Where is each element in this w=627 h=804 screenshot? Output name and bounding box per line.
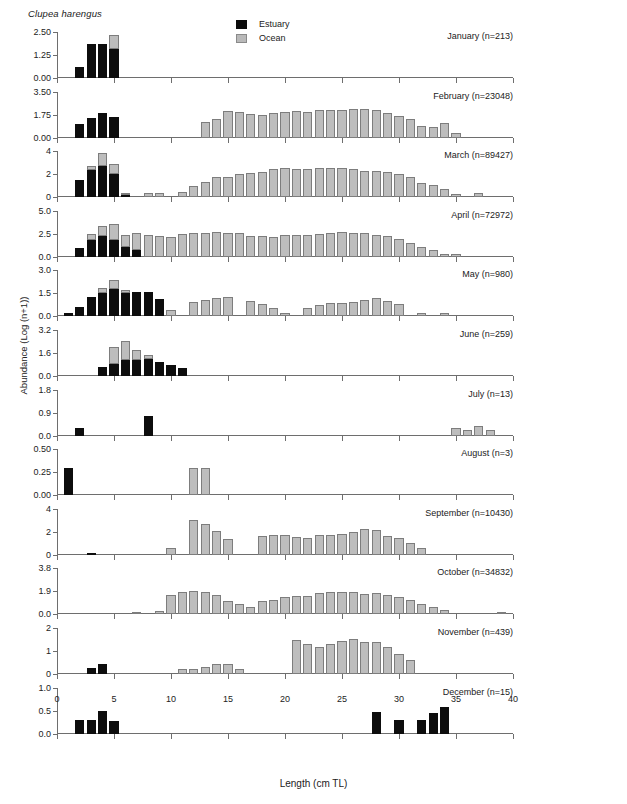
bar	[315, 305, 324, 317]
y-axis-line	[57, 270, 58, 316]
bar-segment-ocean	[212, 595, 221, 614]
x-tick	[57, 316, 58, 321]
x-tick	[57, 257, 58, 262]
plot-area-january: 0.001.252.50	[57, 32, 513, 78]
bar-segment-ocean	[417, 183, 426, 197]
bar-segment-estuary	[98, 44, 107, 78]
plot-area-may: 0.01.53.0	[57, 270, 513, 316]
x-tick	[399, 78, 400, 83]
bar	[109, 117, 118, 138]
y-tick	[53, 591, 57, 592]
bar	[223, 177, 232, 197]
y-tick-label: 1.5	[38, 288, 51, 298]
x-tick	[57, 495, 58, 500]
x-tick	[342, 138, 343, 143]
bar	[189, 468, 198, 496]
bar-segment-ocean	[429, 185, 438, 197]
x-tick	[342, 257, 343, 262]
bar-segment-ocean	[235, 604, 244, 614]
bar	[360, 300, 369, 316]
bar-segment-ocean	[372, 593, 381, 615]
x-tick	[513, 138, 514, 143]
bar	[360, 109, 369, 137]
x-tick	[399, 674, 400, 679]
bar	[337, 232, 346, 257]
x-tick	[342, 734, 343, 739]
bar-segment-ocean	[280, 235, 289, 256]
x-tick	[456, 257, 457, 262]
bar	[98, 711, 107, 734]
bar	[212, 232, 221, 257]
bar	[246, 173, 255, 197]
bar-segment-estuary	[155, 362, 164, 376]
y-tick-label: 0.50	[33, 444, 51, 454]
bar	[337, 168, 346, 197]
bar-segment-ocean	[246, 173, 255, 197]
bar	[360, 233, 369, 257]
plot-area-july: 0.00.91.8	[57, 390, 513, 436]
x-tick	[399, 257, 400, 262]
bar	[64, 313, 73, 317]
x-tick-label: 0	[54, 694, 59, 704]
bar	[280, 597, 289, 615]
bar-segment-ocean	[360, 594, 369, 615]
x-tick-label: 5	[111, 694, 116, 704]
bar-segment-ocean	[451, 133, 460, 137]
panel-may: May (n=980)0.01.53.0	[57, 270, 513, 316]
bar	[121, 341, 130, 376]
bar	[235, 233, 244, 256]
bar-segment-ocean	[349, 532, 358, 554]
bar-segment-ocean	[178, 192, 187, 197]
y-tick	[53, 270, 57, 271]
bar-segment-estuary	[75, 248, 84, 257]
bar-segment-ocean	[201, 468, 210, 496]
x-tick	[228, 257, 229, 262]
bar-segment-ocean	[417, 247, 426, 257]
x-tick	[285, 436, 286, 441]
bar	[326, 303, 335, 316]
bar-segment-estuary	[144, 292, 153, 317]
bar	[246, 114, 255, 137]
bar	[292, 537, 301, 554]
bar-segment-estuary	[440, 707, 449, 734]
bar	[75, 67, 84, 78]
bar	[360, 642, 369, 674]
bar	[223, 601, 232, 615]
bar	[212, 664, 221, 674]
bar-segment-ocean	[144, 235, 153, 257]
bar-segment-estuary	[121, 247, 130, 257]
bar	[87, 166, 96, 198]
y-tick	[53, 628, 57, 629]
bar	[440, 707, 449, 734]
bar-segment-ocean	[349, 639, 358, 674]
bar	[178, 669, 187, 674]
bar-segment-ocean	[132, 612, 141, 614]
bar	[144, 235, 153, 257]
x-tick	[399, 495, 400, 500]
bar-segment-ocean	[406, 177, 415, 197]
bar	[406, 119, 415, 138]
bar	[337, 534, 346, 555]
bar	[474, 426, 483, 436]
x-tick	[399, 138, 400, 143]
bar-segment-ocean	[406, 600, 415, 615]
bar-segment-ocean	[463, 430, 472, 436]
bar-segment-ocean	[315, 110, 324, 137]
bar-segment-ocean	[246, 114, 255, 137]
bar	[223, 297, 232, 316]
bar	[337, 592, 346, 615]
bar	[201, 667, 210, 674]
y-tick-label: 1	[46, 646, 51, 656]
bar	[440, 610, 449, 615]
bar-segment-ocean	[429, 607, 438, 615]
x-tick	[399, 436, 400, 441]
bar	[109, 280, 118, 316]
x-tick	[342, 436, 343, 441]
x-tick	[57, 138, 58, 143]
bar-segment-ocean	[121, 341, 130, 360]
bar	[87, 44, 96, 78]
bar-segment-estuary	[64, 468, 73, 496]
bar	[109, 721, 118, 734]
bar-segment-ocean	[394, 239, 403, 257]
bar-segment-estuary	[98, 293, 107, 316]
